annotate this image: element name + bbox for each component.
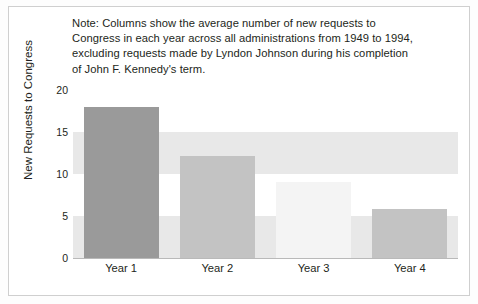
y-tick-15: 15: [44, 126, 68, 138]
y-axis-ticks: 20 15 10 5 0: [40, 90, 68, 258]
x-tick-year-4: Year 4: [394, 262, 426, 274]
chart-note: Note: Columns show the average number of…: [72, 16, 454, 77]
x-axis-ticks: Year 1 Year 2 Year 3 Year 4: [73, 262, 458, 284]
y-tick-0: 0: [44, 252, 68, 264]
plot-area: [73, 90, 458, 258]
x-tick-year-2: Year 2: [201, 262, 233, 274]
x-tick-year-1: Year 1: [105, 262, 137, 274]
y-tick-10: 10: [44, 168, 68, 180]
bar-year-3[interactable]: [276, 182, 351, 258]
bar-year-4[interactable]: [372, 209, 447, 258]
chart-figure: Note: Columns show the average number of…: [0, 0, 478, 304]
y-tick-20: 20: [44, 84, 68, 96]
note-line-3: excluding requests made by Lyndon Johnso…: [72, 46, 454, 61]
note-line-2: Congress in each year across all adminis…: [72, 31, 454, 46]
y-tick-5: 5: [44, 210, 68, 222]
y-axis-title: New Requests to Congress: [22, 20, 34, 200]
note-line-1: Note: Columns show the average number of…: [72, 16, 454, 31]
bar-year-1[interactable]: [84, 107, 159, 258]
bar-year-2[interactable]: [180, 156, 255, 258]
x-tick-year-3: Year 3: [298, 262, 330, 274]
x-axis-line: [73, 258, 458, 259]
note-line-4: of John F. Kennedy's term.: [72, 62, 454, 77]
